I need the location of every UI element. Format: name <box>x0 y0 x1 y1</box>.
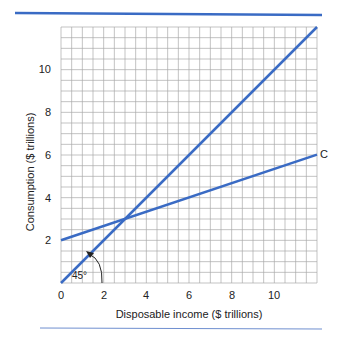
y-tick-8: 8 <box>45 106 51 118</box>
x-tick-8: 8 <box>229 289 235 301</box>
y-tick-2: 2 <box>45 234 51 246</box>
y-tick-6: 6 <box>45 149 51 161</box>
x-tick-6: 6 <box>186 289 192 301</box>
bottom-rule <box>40 328 322 329</box>
x-tick-4: 4 <box>143 289 149 301</box>
x-axis-title: Disposable income ($ trillions) <box>116 308 263 320</box>
y-axis-title: Consumption ($ trillions) <box>24 113 36 232</box>
x-tick-2: 2 <box>101 289 107 301</box>
angle-label: 45° <box>72 270 87 281</box>
y-tick-4: 4 <box>45 192 51 204</box>
angle-arc <box>89 254 102 283</box>
x-tick-0: 0 <box>58 289 64 301</box>
chart-canvas: 45° C 0 2 4 6 8 10 2 4 6 8 10 Disposable… <box>0 0 345 344</box>
top-rule <box>15 13 322 15</box>
y-tick-10: 10 <box>39 63 51 75</box>
x-tick-10: 10 <box>268 289 280 301</box>
curve-label-c: C <box>320 148 328 160</box>
